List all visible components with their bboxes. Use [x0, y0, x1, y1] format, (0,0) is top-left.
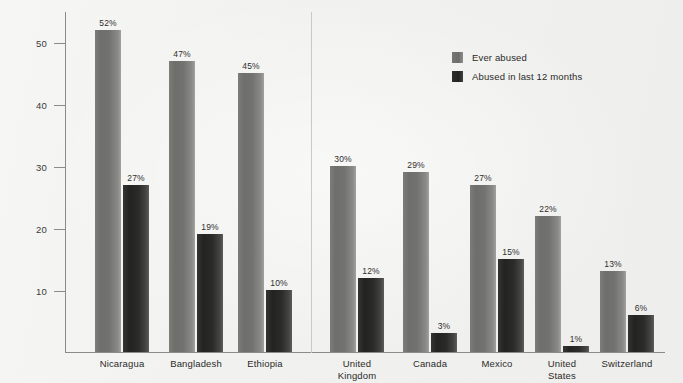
y-axis-tick — [54, 229, 65, 230]
bar-value-label: 10% — [270, 278, 287, 288]
y-axis-tick — [54, 105, 65, 106]
bar: 47% — [169, 61, 195, 352]
bar: 29% — [403, 172, 429, 352]
bar: 6% — [628, 315, 654, 352]
bar: 22% — [535, 216, 561, 352]
y-axis-tick-label: 30 — [36, 162, 47, 173]
y-axis-tick — [54, 167, 65, 168]
chart-legend: Ever abused Abused in last 12 months — [452, 48, 582, 86]
bar: 3% — [431, 333, 457, 352]
bar: 52% — [95, 30, 121, 352]
group-separator-line — [311, 12, 312, 353]
x-axis-category-label: Switzerland — [582, 358, 672, 370]
x-axis-line — [65, 352, 665, 353]
bar: 19% — [197, 234, 223, 352]
y-axis-tick-label: 40 — [36, 100, 47, 111]
chart-page: 1020304050 Percentage of women 52%27%47%… — [0, 0, 683, 383]
y-axis-tick — [54, 291, 65, 292]
bar-value-label: 12% — [362, 266, 379, 276]
bar-value-label: 22% — [539, 204, 556, 214]
bar-value-label: 3% — [438, 321, 451, 331]
bar: 10% — [266, 290, 292, 352]
y-axis-tick-label: 20 — [36, 224, 47, 235]
y-axis-tick-label: 50 — [36, 38, 47, 49]
bar: 13% — [600, 271, 626, 352]
bar-value-label: 19% — [201, 222, 218, 232]
y-axis-tick-labels: 1020304050 — [0, 12, 47, 353]
y-axis-tick-label: 10 — [36, 286, 47, 297]
bar: 12% — [358, 278, 384, 352]
bar: 15% — [498, 259, 524, 352]
bar-value-label: 45% — [242, 61, 259, 71]
bar-value-label: 1% — [570, 334, 583, 344]
bar: 27% — [123, 185, 149, 352]
x-axis-category-label: Ethiopia — [220, 358, 310, 370]
bar-value-label: 47% — [173, 49, 190, 59]
legend-label-abused-last-12-months: Abused in last 12 months — [472, 71, 582, 82]
legend-swatch-abused-last-12-months — [452, 71, 463, 82]
bar-value-label: 6% — [635, 303, 648, 313]
legend-item-ever-abused: Ever abused — [452, 48, 582, 67]
bar-value-label: 27% — [127, 173, 144, 183]
bar: 30% — [330, 166, 356, 352]
y-axis-tick — [54, 43, 65, 44]
bar-value-label: 15% — [502, 247, 519, 257]
legend-item-abused-last-12-months: Abused in last 12 months — [452, 67, 582, 86]
bar-value-label: 29% — [407, 160, 424, 170]
bar: 45% — [238, 73, 264, 352]
legend-swatch-ever-abused — [452, 52, 463, 63]
bar-value-label: 52% — [99, 18, 116, 28]
legend-label-ever-abused: Ever abused — [472, 52, 527, 63]
bar: 27% — [470, 185, 496, 352]
bar-value-label: 13% — [604, 259, 621, 269]
bar-value-label: 30% — [334, 154, 351, 164]
bar-value-label: 27% — [474, 173, 491, 183]
y-axis-line — [65, 12, 66, 353]
bar: 1% — [563, 346, 589, 352]
